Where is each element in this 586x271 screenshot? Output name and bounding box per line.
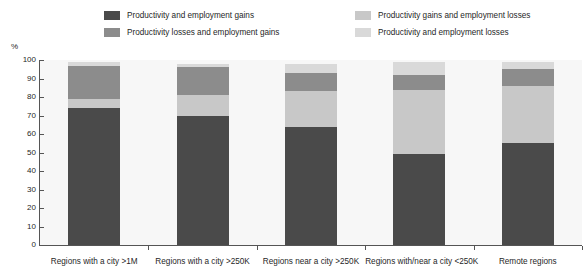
legend-item-label: Productivity and employment gains: [127, 11, 254, 20]
chart-plot: % 0102030405060708090100 Regions with a …: [0, 42, 586, 271]
legend-swatch-icon: [355, 11, 371, 20]
bar-group[interactable]: [393, 60, 445, 245]
bar-segment[interactable]: [393, 90, 445, 155]
legend-swatch-icon: [355, 28, 371, 37]
bar-stack: [68, 62, 120, 245]
y-axis-tick-label: 70: [2, 112, 36, 120]
y-axis-tick-label: 90: [2, 75, 36, 83]
y-axis-tick-label: 30: [2, 186, 36, 194]
y-axis-tick-label-wrap: 10: [0, 223, 36, 231]
bar-segment[interactable]: [285, 91, 337, 126]
bar-segment[interactable]: [285, 127, 337, 245]
bar-segment[interactable]: [177, 116, 229, 246]
x-axis-line: [39, 245, 582, 246]
bar-segment[interactable]: [68, 108, 120, 245]
chart-axis-area: 0102030405060708090100: [0, 54, 586, 254]
y-axis-tick-label-wrap: 20: [0, 204, 36, 212]
y-axis-tick-label-wrap: 0: [0, 241, 36, 249]
legend-item: Productivity gains and employment losses: [355, 8, 530, 23]
x-axis-tick: [257, 246, 258, 250]
bar-series-container: [40, 60, 582, 245]
legend-item: Productivity and employment losses: [355, 25, 530, 40]
bar-segment[interactable]: [502, 143, 554, 245]
bar-segment[interactable]: [177, 95, 229, 115]
bar-group[interactable]: [68, 60, 120, 245]
y-axis-tick-label: 20: [2, 204, 36, 212]
bar-segment[interactable]: [502, 62, 554, 69]
bar-segment[interactable]: [285, 64, 337, 73]
x-axis-tick-label: Remote regions: [474, 257, 582, 267]
bar-stack: [502, 62, 554, 245]
y-axis-tick-label-wrap: 60: [0, 130, 36, 138]
bar-stack: [177, 64, 229, 245]
bar-stack: [393, 62, 445, 245]
x-axis-tick: [148, 246, 149, 250]
y-axis-tick-label: 60: [2, 130, 36, 138]
bar-segment[interactable]: [502, 86, 554, 143]
bar-segment[interactable]: [177, 67, 229, 95]
legend-item: Productivity and employment gains: [104, 8, 279, 23]
y-axis-tick-label-wrap: 30: [0, 186, 36, 194]
bar-segment[interactable]: [393, 62, 445, 75]
legend-item-label: Productivity gains and employment losses: [378, 11, 530, 20]
legend-swatch-icon: [104, 28, 120, 37]
x-axis-tick: [365, 246, 366, 250]
y-axis-tick-label: 80: [2, 93, 36, 101]
x-axis-tick: [582, 246, 583, 250]
y-axis-tick-label-wrap: 50: [0, 149, 36, 157]
y-axis-tick-label-wrap: 80: [0, 93, 36, 101]
bar-segment[interactable]: [393, 75, 445, 90]
y-axis-tick-label: 50: [2, 149, 36, 157]
bar-stack: [285, 64, 337, 245]
chart-legend: Productivity and employment gains Produc…: [0, 8, 586, 42]
y-axis-unit-label: %: [11, 42, 18, 51]
bar-group[interactable]: [177, 60, 229, 245]
bar-segment[interactable]: [393, 154, 445, 245]
legend-swatch-icon: [104, 11, 120, 20]
y-axis-tick-label: 40: [2, 167, 36, 175]
legend-item-label: Productivity losses and employment gains: [127, 28, 279, 37]
bar-group[interactable]: [285, 60, 337, 245]
bar-segment[interactable]: [502, 69, 554, 86]
y-axis-tick-label: 0: [2, 241, 36, 249]
x-axis-tick-label: Regions with/near a city <250K: [365, 257, 473, 267]
x-axis-labels: Regions with a city >1MRegions with a ci…: [0, 257, 586, 271]
legend-column-right: Productivity gains and employment losses…: [355, 8, 530, 42]
legend-column-left: Productivity and employment gains Produc…: [104, 8, 279, 42]
y-axis-tick-label-wrap: 40: [0, 167, 36, 175]
bar-group[interactable]: [502, 60, 554, 245]
x-axis-tick-label: Regions near a city >250K: [257, 257, 365, 267]
y-axis-tick-label-wrap: 100: [0, 56, 36, 64]
y-axis-tick-label: 100: [2, 56, 36, 64]
y-axis-tick-label: 10: [2, 223, 36, 231]
y-axis-tick: [40, 245, 44, 246]
bar-segment[interactable]: [68, 66, 120, 99]
y-axis-tick-label-wrap: 70: [0, 112, 36, 120]
legend-item: Productivity losses and employment gains: [104, 25, 279, 40]
y-axis-tick-label-wrap: 90: [0, 75, 36, 83]
x-axis-tick-label: Regions with a city >250K: [148, 257, 256, 267]
bar-segment[interactable]: [68, 99, 120, 108]
x-axis-tick: [474, 246, 475, 250]
x-axis-tick-label: Regions with a city >1M: [40, 257, 148, 267]
bar-segment[interactable]: [285, 73, 337, 92]
legend-item-label: Productivity and employment losses: [378, 28, 509, 37]
